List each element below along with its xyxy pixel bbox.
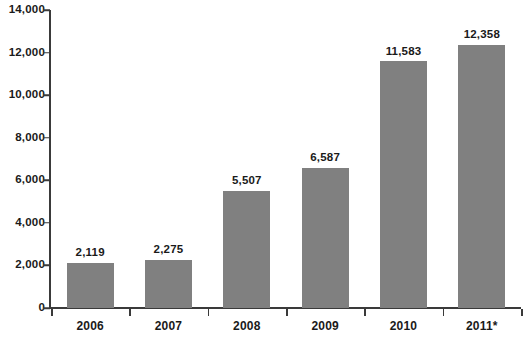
y-axis-tick-label: 12,000 (1, 47, 45, 59)
x-axis-tick-mark (208, 309, 210, 316)
x-axis: 200620072008200920102011* (51, 320, 521, 340)
bar-group[interactable]: 2,275 (145, 10, 192, 308)
x-axis-tick-mark (521, 309, 523, 316)
bar-group[interactable]: 2,119 (67, 10, 114, 308)
x-axis-tick-label: 2006 (76, 320, 104, 332)
bar[interactable] (67, 263, 114, 308)
y-axis: 02,0004,0006,0008,00010,00012,00014,000 (0, 0, 45, 342)
x-axis-tick-mark (286, 309, 288, 316)
bar-value-label: 12,358 (464, 29, 500, 41)
bar-value-label: 2,275 (154, 244, 184, 256)
bar-value-label: 5,507 (232, 175, 262, 187)
y-axis-tick-label: 8,000 (1, 132, 45, 144)
x-axis-tick-label: 2010 (390, 320, 418, 332)
x-axis-tick-label: 2008 (233, 320, 261, 332)
bar[interactable] (145, 260, 192, 308)
y-axis-tick-label: 4,000 (1, 217, 45, 229)
x-axis-tick-label: 2007 (155, 320, 183, 332)
y-axis-tick-label: 0 (1, 302, 45, 314)
x-axis-tick-mark (443, 309, 445, 316)
y-axis-tick-label: 6,000 (1, 175, 45, 187)
y-axis-tick-label: 14,000 (1, 4, 45, 16)
bar-chart: 02,0004,0006,0008,00010,00012,00014,000 … (0, 0, 527, 342)
bar-value-label: 6,587 (310, 152, 340, 164)
x-axis-tick-mark (364, 309, 366, 316)
bar-value-label: 11,583 (386, 46, 422, 58)
bar-group[interactable]: 6,587 (302, 10, 349, 308)
x-axis-tick-mark (129, 309, 131, 316)
bar[interactable] (458, 45, 505, 308)
x-axis-tick-label: 2011* (466, 320, 498, 332)
bar-value-label: 2,119 (76, 247, 105, 259)
bar[interactable] (380, 61, 427, 308)
y-axis-tick-label: 10,000 (1, 89, 45, 101)
bar-group[interactable]: 12,358 (458, 10, 505, 308)
bar-group[interactable]: 11,583 (380, 10, 427, 308)
x-axis-tick-label: 2009 (311, 320, 339, 332)
x-axis-tick-mark (51, 309, 53, 316)
plot-area: 2,1192,2755,5076,58711,58312,358 (51, 10, 521, 308)
bar-group[interactable]: 5,507 (223, 10, 270, 308)
y-axis-tick-label: 2,000 (1, 260, 45, 272)
bar[interactable] (223, 191, 270, 308)
bar[interactable] (302, 168, 349, 308)
